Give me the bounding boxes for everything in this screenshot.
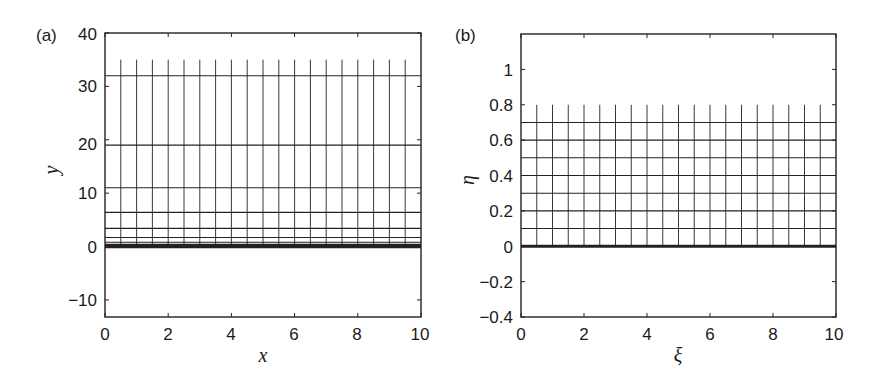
x-tick-label: 0 [516, 325, 525, 344]
x-tick-label: 6 [705, 325, 714, 344]
figure: (a) −10 0 10 20 30 40 0 2 4 6 8 10 x y (… [0, 0, 883, 380]
x-tick-label: 4 [642, 325, 651, 344]
panel-a-x-tick-labels: 0 2 4 6 8 10 [100, 325, 429, 344]
y-tick-label: −0.2 [479, 273, 513, 292]
x-tick-label: 2 [163, 325, 172, 344]
panel-a-x-axis-label: x [258, 344, 268, 366]
panel-b-label: (b) [455, 26, 476, 45]
panel-b-x-axis-label: ξ [674, 344, 683, 366]
panel-b-mesh-lines [521, 105, 836, 247]
x-tick-label: 4 [226, 325, 235, 344]
panel-b-y-axis-label: η [456, 175, 479, 185]
panel-a-label: (a) [36, 26, 57, 45]
y-tick-label: 0.8 [489, 96, 513, 115]
y-tick-label: −0.4 [479, 308, 513, 327]
panel-a-mesh-lines [105, 60, 421, 247]
y-tick-label: 10 [78, 184, 97, 203]
panel-a-y-axis-label: y [40, 165, 63, 176]
panel-b-x-tick-labels: 0 2 4 6 8 10 [516, 325, 843, 344]
y-tick-label: 0 [504, 238, 513, 257]
x-tick-label: 6 [289, 325, 298, 344]
x-tick-label: 10 [825, 325, 844, 344]
panel-b-computational-mesh: (b) −0.4 −0.2 0 0.2 0.4 0.6 0.8 1 0 2 4 … [455, 26, 843, 366]
y-tick-label: 0.6 [489, 131, 513, 150]
x-tick-label: 8 [768, 325, 777, 344]
y-tick-label: 0.4 [489, 167, 513, 186]
x-tick-label: 2 [579, 325, 588, 344]
panel-a-physical-mesh: (a) −10 0 10 20 30 40 0 2 4 6 8 10 x y [36, 25, 429, 366]
x-tick-label: 10 [411, 325, 430, 344]
y-tick-label: 0.2 [489, 202, 513, 221]
x-tick-label: 0 [100, 325, 109, 344]
y-tick-label: −10 [68, 291, 97, 310]
y-tick-label: 20 [78, 135, 97, 154]
y-tick-label: 0 [88, 238, 97, 257]
panel-a-y-tick-labels: −10 0 10 20 30 40 [68, 25, 97, 310]
y-tick-label: 30 [78, 77, 97, 96]
x-tick-label: 8 [352, 325, 361, 344]
y-tick-label: 40 [78, 25, 97, 44]
y-tick-label: 1 [504, 61, 513, 80]
panel-b-y-tick-labels: −0.4 −0.2 0 0.2 0.4 0.6 0.8 1 [479, 61, 513, 327]
